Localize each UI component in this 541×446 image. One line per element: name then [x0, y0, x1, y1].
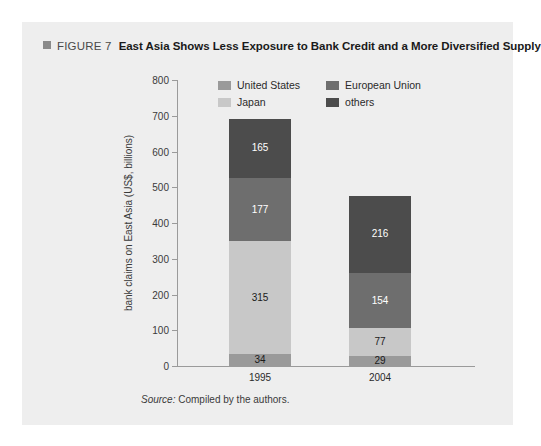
y-axis-tick-mark: [172, 366, 177, 367]
legend-item-european-union[interactable]: European Union: [326, 79, 421, 91]
bar-segment-european-union[interactable]: 177: [229, 178, 291, 241]
y-axis-tick-mark: [172, 116, 177, 117]
y-axis-tick-label: 500: [152, 182, 169, 193]
legend-label: European Union: [345, 79, 421, 91]
legend-swatch-icon: [218, 98, 231, 107]
bar-2004[interactable]: 2161547729: [349, 196, 411, 366]
legend-item-others[interactable]: others: [326, 96, 421, 108]
legend-label: others: [345, 96, 374, 108]
y-axis-line: [177, 80, 178, 366]
figure-panel: FIGURE 7 East Asia Shows Less Exposure t…: [22, 22, 513, 425]
bar-segment-others[interactable]: 165: [229, 119, 291, 178]
y-axis-tick-mark: [172, 80, 177, 81]
bar-segment-japan[interactable]: 77: [349, 328, 411, 356]
figure-number: FIGURE 7: [57, 40, 112, 52]
bar-segment-others[interactable]: 216: [349, 196, 411, 273]
bar-segment-value: 29: [374, 356, 385, 366]
legend-item-japan[interactable]: Japan: [218, 96, 300, 108]
y-axis-tick-mark: [172, 295, 177, 296]
chart-legend: United StatesEuropean UnionJapanothers: [218, 79, 421, 108]
y-axis-tick-mark: [172, 259, 177, 260]
plot-area: 0100200300400500600700800 16517731534199…: [177, 80, 477, 366]
bar-segment-united-states[interactable]: 34: [229, 354, 291, 366]
y-axis-tick-label: 600: [152, 146, 169, 157]
x-axis-line: [177, 366, 475, 367]
legend-swatch-icon: [218, 81, 231, 90]
y-axis-tick-label: 700: [152, 110, 169, 121]
legend-swatch-icon: [326, 98, 339, 107]
y-axis-tick-mark: [172, 330, 177, 331]
y-axis-tick-label: 400: [152, 218, 169, 229]
source-text: Compiled by the authors.: [178, 394, 289, 405]
bar-segment-value: 77: [374, 337, 385, 347]
bar-segment-united-states[interactable]: 29: [349, 356, 411, 366]
bar-segment-value: 165: [252, 143, 269, 153]
y-axis-tick-mark: [172, 152, 177, 153]
bar-segment-value: 315: [252, 293, 269, 303]
bar-segment-value: 216: [372, 229, 389, 239]
y-axis-tick-label: 200: [152, 289, 169, 300]
source-label: Source:: [141, 394, 175, 405]
bar-segment-japan[interactable]: 315: [229, 241, 291, 354]
y-axis-tick-label: 100: [152, 325, 169, 336]
x-axis-label-1995: 1995: [229, 372, 291, 383]
y-axis-tick-mark: [172, 187, 177, 188]
x-axis-label-2004: 2004: [349, 372, 411, 383]
y-axis-tick-label: 0: [163, 361, 169, 372]
y-axis-tick-label: 300: [152, 253, 169, 264]
figure-header: FIGURE 7 East Asia Shows Less Exposure t…: [43, 40, 541, 52]
bar-1995[interactable]: 16517731534: [229, 119, 291, 366]
bar-segment-value: 154: [372, 296, 389, 306]
bar-segment-european-union[interactable]: 154: [349, 273, 411, 328]
source-note: Source: Compiled by the authors.: [141, 394, 289, 405]
square-marker-icon: [43, 41, 51, 49]
legend-swatch-icon: [326, 81, 339, 90]
bar-segment-value: 177: [252, 205, 269, 215]
legend-label: Japan: [237, 96, 266, 108]
y-axis-title: bank claims on East Asia (US$, billions): [123, 80, 137, 366]
legend-label: United States: [237, 79, 300, 91]
page-title: East Asia Shows Less Exposure to Bank Cr…: [119, 40, 541, 52]
bar-segment-value: 34: [254, 355, 265, 365]
y-axis-tick-label: 800: [152, 75, 169, 86]
legend-item-united-states[interactable]: United States: [218, 79, 300, 91]
y-axis-tick-mark: [172, 223, 177, 224]
